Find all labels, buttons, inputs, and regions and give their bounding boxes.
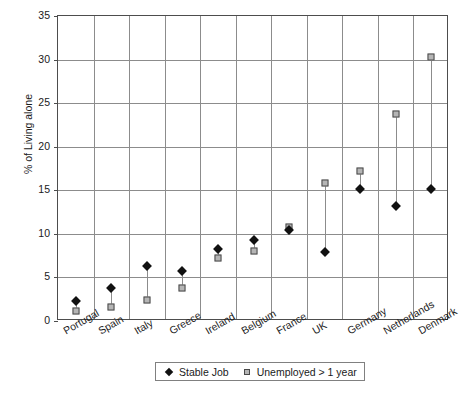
y-axis-tick-label: 10 <box>24 228 50 238</box>
gridline-vertical <box>200 16 201 319</box>
gridline-horizontal <box>58 190 447 191</box>
x-axis-tick-label: UK <box>310 319 329 337</box>
y-axis-tick-label: 20 <box>24 141 50 151</box>
y-axis-tick-label: 30 <box>24 54 50 64</box>
connector-line <box>325 183 326 252</box>
data-point-unemployed <box>179 284 186 291</box>
data-point-unemployed <box>72 308 79 315</box>
data-point-stable-job <box>391 201 401 211</box>
y-axis-tick-mark <box>54 277 58 278</box>
connector-line <box>396 114 397 206</box>
gridline-vertical <box>413 16 414 319</box>
y-axis-tick-mark <box>54 147 58 148</box>
diamond-icon <box>165 367 173 375</box>
data-point-unemployed <box>214 255 221 262</box>
y-axis-tick-label: 15 <box>24 184 50 194</box>
gridline-horizontal <box>58 277 447 278</box>
y-axis-tick-mark <box>54 321 58 322</box>
y-axis-tick-label: 5 <box>24 271 50 281</box>
gridline-vertical <box>307 16 308 319</box>
legend-swatch <box>163 366 175 378</box>
gridline-vertical <box>129 16 130 319</box>
data-point-unemployed <box>428 53 435 60</box>
data-point-unemployed <box>357 168 364 175</box>
data-point-unemployed <box>250 248 257 255</box>
data-point-stable-job <box>71 296 81 306</box>
data-point-stable-job <box>320 247 330 257</box>
data-point-stable-job <box>142 261 152 271</box>
data-point-stable-job <box>426 184 436 194</box>
gridline-vertical <box>165 16 166 319</box>
gridline-vertical <box>342 16 343 319</box>
gridline-vertical <box>378 16 379 319</box>
legend-entry: Unemployed > 1 year <box>241 366 357 378</box>
connector-line <box>147 266 148 300</box>
gridline-vertical <box>236 16 237 319</box>
gridline-vertical <box>271 16 272 319</box>
legend-label: Stable Job <box>179 366 229 378</box>
gridline-horizontal <box>58 147 447 148</box>
y-axis-tick-mark <box>54 190 58 191</box>
data-point-unemployed <box>143 297 150 304</box>
data-point-stable-job <box>177 266 187 276</box>
gridline-horizontal <box>58 60 447 61</box>
y-axis-tick-mark <box>54 60 58 61</box>
data-point-stable-job <box>249 235 259 245</box>
plot-area <box>57 15 448 320</box>
legend-swatch <box>241 366 253 378</box>
y-axis-tick-label: 25 <box>24 97 50 107</box>
square-icon <box>244 369 250 375</box>
chart-legend: Stable JobUnemployed > 1 year <box>155 362 365 381</box>
y-axis-tick-label: 35 <box>24 10 50 20</box>
connector-line <box>431 57 432 189</box>
gridline-vertical <box>94 16 95 319</box>
legend-label: Unemployed > 1 year <box>257 366 357 378</box>
data-point-unemployed <box>392 111 399 118</box>
data-point-stable-job <box>213 244 223 254</box>
data-point-unemployed <box>321 180 328 187</box>
y-axis-tick-mark <box>54 16 58 17</box>
data-point-stable-job <box>355 184 365 194</box>
y-axis-tick-mark <box>54 103 58 104</box>
gridline-horizontal <box>58 103 447 104</box>
y-axis-tick-label: 0 <box>24 315 50 325</box>
legend-entry: Stable Job <box>163 366 229 378</box>
y-axis-tick-mark <box>54 234 58 235</box>
data-point-unemployed <box>108 304 115 311</box>
data-point-stable-job <box>106 283 116 293</box>
